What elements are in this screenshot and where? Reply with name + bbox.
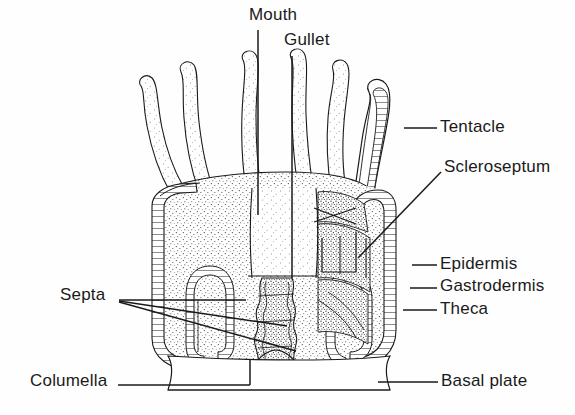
label-basal-plate: Basal plate	[441, 371, 527, 391]
tentacle-2	[180, 62, 213, 192]
tentacle-4	[290, 49, 313, 188]
label-epidermis: Epidermis	[440, 254, 517, 274]
label-theca: Theca	[440, 299, 488, 319]
tentacle-5	[327, 60, 349, 190]
tentacle-1	[140, 76, 183, 192]
label-mouth: Mouth	[249, 5, 297, 25]
label-gastrodermis: Gastrodermis	[440, 276, 544, 296]
coral-polyp-diagram	[0, 0, 575, 415]
label-gullet: Gullet	[284, 30, 330, 50]
label-tentacle: Tentacle	[440, 117, 505, 137]
scleroseptum-plates	[314, 192, 370, 345]
gullet-tube	[248, 188, 322, 278]
label-septa: Septa	[60, 285, 105, 305]
label-columella: Columella	[30, 371, 107, 391]
label-scleroseptum: Scleroseptum	[444, 157, 550, 177]
polyp-column	[152, 183, 396, 386]
tentacle-group	[140, 49, 349, 192]
